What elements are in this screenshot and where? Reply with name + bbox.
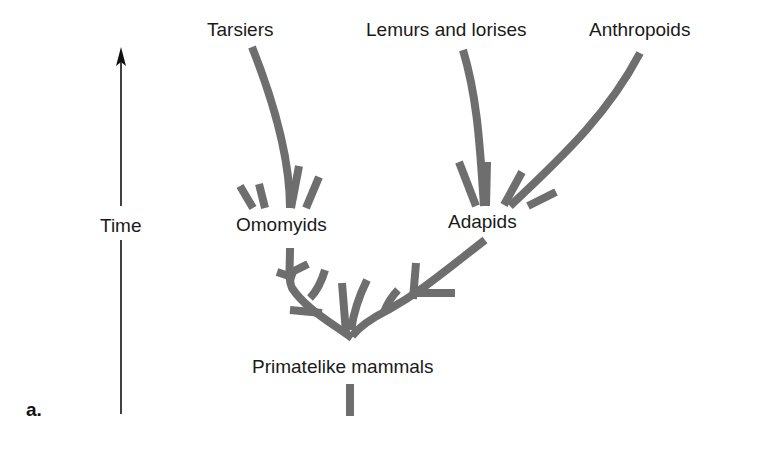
- time-axis-label: Time: [100, 216, 142, 235]
- label-primatelike-mammals: Primatelike mammals: [252, 357, 434, 376]
- panel-label: a.: [26, 400, 42, 419]
- label-lemurs-and-lorises: Lemurs and lorises: [366, 20, 527, 39]
- adapid-radiation: [459, 162, 476, 206]
- adapid-radiation: [528, 192, 556, 206]
- side-branch: [292, 264, 308, 272]
- omomyid-radiation: [306, 177, 319, 208]
- branch-to-tarsiers: [252, 47, 290, 208]
- side-branch: [310, 270, 325, 298]
- omomyid-radiation: [291, 166, 299, 208]
- adapid-lineage: [352, 50, 640, 336]
- label-anthropoids: Anthropoids: [589, 20, 690, 39]
- tree-graphic: [0, 0, 759, 474]
- label-omomyids: Omomyids: [236, 215, 327, 234]
- label-tarsiers: Tarsiers: [207, 20, 274, 39]
- side-branch: [277, 272, 295, 278]
- side-branch: [290, 310, 322, 313]
- label-adapids: Adapids: [448, 212, 517, 231]
- omomyid-radiation: [259, 184, 265, 208]
- omomyid-lineage: [240, 47, 352, 338]
- phylogenetic-tree-diagram: Tarsiers Lemurs and lorises Anthropoids …: [0, 0, 759, 474]
- omomyid-radiation: [240, 186, 253, 208]
- center-branch: [342, 283, 346, 333]
- branch-to-anthropoids: [510, 53, 640, 206]
- branch-to-adapids: [352, 240, 485, 336]
